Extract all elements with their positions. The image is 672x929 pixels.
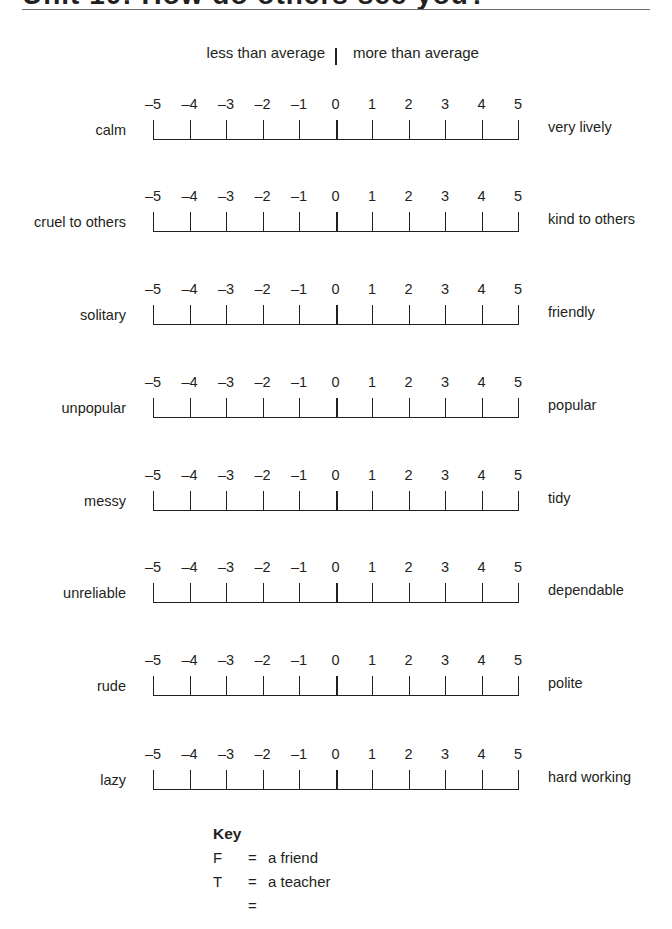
scale-tick[interactable]: [153, 212, 154, 232]
scale-tick[interactable]: [299, 212, 300, 232]
scale-tick[interactable]: [299, 398, 300, 418]
scale-tick[interactable]: [336, 120, 338, 140]
scale-tick[interactable]: [372, 676, 373, 696]
rating-scale[interactable]: –5–4–3–2–1012345: [153, 370, 519, 430]
scale-tick[interactable]: [263, 491, 264, 511]
scale-tick[interactable]: [409, 212, 410, 232]
scale-tick[interactable]: [153, 491, 154, 511]
scale-tick[interactable]: [226, 305, 227, 325]
scale-tick[interactable]: [372, 770, 373, 790]
scale-right-label: friendly: [548, 304, 595, 320]
scale-tick[interactable]: [190, 491, 191, 511]
scale-tick[interactable]: [518, 583, 519, 603]
scale-tick[interactable]: [263, 676, 264, 696]
scale-tick[interactable]: [299, 305, 300, 325]
scale-tick[interactable]: [153, 770, 154, 790]
scale-tick[interactable]: [518, 676, 519, 696]
scale-tick[interactable]: [153, 583, 154, 603]
scale-tick[interactable]: [263, 398, 264, 418]
scale-tick[interactable]: [336, 583, 338, 603]
scale-tick[interactable]: [445, 212, 446, 232]
scale-tick[interactable]: [409, 491, 410, 511]
scale-tick[interactable]: [482, 770, 483, 790]
scale-tick[interactable]: [409, 305, 410, 325]
scale-tick[interactable]: [153, 398, 154, 418]
scale-tick[interactable]: [445, 491, 446, 511]
scale-tick[interactable]: [336, 770, 338, 790]
scale-tick[interactable]: [409, 398, 410, 418]
scale-tick[interactable]: [299, 770, 300, 790]
scale-tick[interactable]: [226, 583, 227, 603]
scale-tick[interactable]: [299, 491, 300, 511]
scale-tick[interactable]: [153, 676, 154, 696]
scale-tick[interactable]: [409, 770, 410, 790]
scale-tick[interactable]: [153, 305, 154, 325]
scale-tick[interactable]: [445, 305, 446, 325]
scale-tick[interactable]: [372, 212, 373, 232]
key-entry-blank[interactable]: =: [213, 894, 241, 918]
scale-tick[interactable]: [409, 120, 410, 140]
scale-tick[interactable]: [226, 398, 227, 418]
rating-scale[interactable]: –5–4–3–2–1012345: [153, 555, 519, 615]
scale-tick[interactable]: [518, 305, 519, 325]
scale-tick[interactable]: [518, 491, 519, 511]
scale-tick[interactable]: [336, 398, 338, 418]
scale-tick[interactable]: [299, 583, 300, 603]
scale-tick[interactable]: [518, 212, 519, 232]
scale-tick[interactable]: [482, 583, 483, 603]
scale-tick[interactable]: [445, 120, 446, 140]
scale-tick[interactable]: [336, 676, 338, 696]
scale-tick[interactable]: [226, 491, 227, 511]
scale-tick[interactable]: [445, 676, 446, 696]
scale-tick[interactable]: [336, 212, 338, 232]
rating-scale[interactable]: –5–4–3–2–1012345: [153, 277, 519, 337]
scale-tick[interactable]: [445, 398, 446, 418]
scale-tick[interactable]: [226, 676, 227, 696]
scale-tick[interactable]: [409, 583, 410, 603]
scale-tick[interactable]: [336, 491, 338, 511]
scale-tick[interactable]: [445, 583, 446, 603]
rating-scale[interactable]: –5–4–3–2–1012345: [153, 463, 519, 523]
scale-tick[interactable]: [263, 305, 264, 325]
scale-tick[interactable]: [482, 676, 483, 696]
scale-tick[interactable]: [482, 491, 483, 511]
rating-scale[interactable]: –5–4–3–2–1012345: [153, 92, 519, 152]
scale-tick[interactable]: [518, 398, 519, 418]
scale-tick[interactable]: [372, 491, 373, 511]
scale-tick[interactable]: [372, 305, 373, 325]
scale-tick[interactable]: [190, 398, 191, 418]
scale-tick[interactable]: [190, 583, 191, 603]
scale-tick[interactable]: [336, 305, 338, 325]
rating-scale[interactable]: –5–4–3–2–1012345: [153, 184, 519, 244]
scale-tick[interactable]: [482, 120, 483, 140]
scale-tick[interactable]: [482, 212, 483, 232]
scale-tick[interactable]: [190, 676, 191, 696]
scale-tick[interactable]: [190, 120, 191, 140]
rating-scale[interactable]: –5–4–3–2–1012345: [153, 742, 519, 802]
scale-tick[interactable]: [372, 120, 373, 140]
scale-tick[interactable]: [263, 120, 264, 140]
scale-tick[interactable]: [482, 305, 483, 325]
scale-tick[interactable]: [263, 583, 264, 603]
scale-tick[interactable]: [226, 212, 227, 232]
scale-tick[interactable]: [190, 305, 191, 325]
scale-tick[interactable]: [518, 120, 519, 140]
rating-scale[interactable]: –5–4–3–2–1012345: [153, 648, 519, 708]
scale-tick[interactable]: [190, 212, 191, 232]
scale-tick[interactable]: [372, 583, 373, 603]
scale-tick[interactable]: [299, 676, 300, 696]
scale-tick[interactable]: [226, 770, 227, 790]
scale-tick[interactable]: [518, 770, 519, 790]
scale-tick[interactable]: [372, 398, 373, 418]
scale-tick[interactable]: [263, 770, 264, 790]
scale-tick[interactable]: [153, 120, 154, 140]
tick-label: 0: [321, 746, 351, 762]
scale-tick[interactable]: [226, 120, 227, 140]
scale-tick[interactable]: [445, 770, 446, 790]
scale-tick[interactable]: [299, 120, 300, 140]
tick-label: 5: [503, 96, 533, 112]
scale-tick[interactable]: [190, 770, 191, 790]
scale-tick[interactable]: [409, 676, 410, 696]
scale-tick[interactable]: [482, 398, 483, 418]
scale-tick[interactable]: [263, 212, 264, 232]
